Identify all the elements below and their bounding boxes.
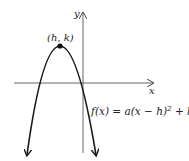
equation-main: f(x) = a(x − h) xyxy=(90,105,167,117)
vertex-label: (h, k) xyxy=(47,32,74,43)
x-axis-label: x xyxy=(149,85,155,96)
parabola-curve-left xyxy=(27,46,60,155)
parabola-curve-right xyxy=(60,46,96,155)
equation-label: f(x) = a(x − h)2 + k xyxy=(90,105,189,117)
vertex-point xyxy=(57,43,62,48)
parabola-diagram: y x (h, k) f(x) = a(x − h)2 + k xyxy=(0,0,189,161)
y-axis-label: y xyxy=(73,8,80,19)
equation-tail: + k xyxy=(172,105,189,117)
